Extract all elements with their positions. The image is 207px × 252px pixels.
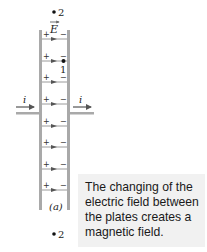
plus-charges: ++++ ++++ [43,30,50,190]
point-2-bottom: 2 [52,229,64,240]
svg-text:+: + [43,73,50,82]
minus-charges: −−−− −−−− [60,30,67,190]
left-wire [16,112,39,115]
svg-text:−: − [60,30,67,39]
caption-text: The changing of the electric field betwe… [85,180,199,239]
svg-text:+: + [43,138,50,147]
current-label-left: i [23,94,26,105]
svg-text:−: − [60,95,67,104]
svg-text:+: + [43,95,50,104]
svg-text:+: + [43,30,50,39]
figure-label: (a) [49,201,63,212]
field-e-text: E [49,23,58,36]
svg-text:−: − [60,117,67,126]
svg-text:+: + [43,181,50,190]
svg-text:+: + [43,160,50,169]
point-1-label: 1 [60,64,66,75]
electric-field-label: E [49,22,59,36]
point-2-top-label: 2 [58,7,64,18]
svg-text:−: − [60,138,67,147]
svg-text:−: − [60,160,67,169]
current-label-right: i [79,94,82,105]
svg-text:+: + [43,117,50,126]
svg-text:+: + [43,52,50,61]
point-2-top: 2 [52,7,64,18]
point-2-bottom-label: 2 [58,229,64,240]
caption-box: The changing of the electric field betwe… [78,174,205,247]
right-wire [70,112,94,115]
field-arrows [51,37,57,192]
right-plate [67,30,70,210]
svg-text:−: − [60,181,67,190]
left-plate [39,30,42,210]
